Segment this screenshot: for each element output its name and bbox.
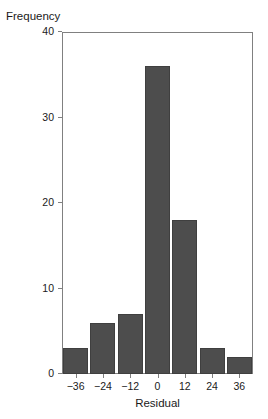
y-axis-title: Frequency [6, 10, 60, 23]
y-tick-label: 40 [42, 25, 54, 37]
y-tick-mark [58, 31, 62, 32]
plot-area [62, 32, 253, 374]
y-tick-label: 20 [42, 196, 54, 208]
x-tick-label: 36 [219, 380, 259, 392]
x-axis-title: Residual [62, 396, 253, 410]
y-tick-mark [58, 117, 62, 118]
x-tick-mark [239, 374, 240, 378]
y-tick-mark [58, 288, 62, 289]
x-tick-mark [76, 374, 77, 378]
histogram-bar [227, 357, 252, 374]
y-tick-mark [58, 202, 62, 203]
x-tick-mark [212, 374, 213, 378]
x-tick-mark [185, 374, 186, 378]
y-tick-label: 0 [48, 367, 54, 379]
x-tick-mark [103, 374, 104, 378]
y-tick-mark [58, 373, 62, 374]
y-tick-label: 30 [42, 111, 54, 123]
histogram-bar [145, 66, 170, 374]
x-tick-mark [158, 374, 159, 378]
histogram-bar [172, 220, 197, 374]
histogram-bar [118, 314, 143, 374]
histogram-bar [90, 323, 115, 374]
y-tick-label: 10 [42, 282, 54, 294]
histogram-figure: Frequency 010203040 −36−24−120122436 Res… [0, 0, 268, 419]
histogram-bar [63, 348, 88, 374]
histogram-bar [200, 348, 225, 374]
x-tick-mark [130, 374, 131, 378]
